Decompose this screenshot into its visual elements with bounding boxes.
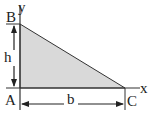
vertex-c-label: C	[127, 93, 137, 109]
triangle-diagram: y x B A C h b	[0, 0, 152, 113]
triangle-shape	[20, 24, 125, 88]
height-label: h	[4, 49, 12, 65]
base-label: b	[67, 91, 75, 107]
y-axis-label: y	[18, 0, 26, 15]
vertex-b-label: B	[6, 9, 16, 25]
x-axis-label: x	[140, 80, 148, 96]
vertex-a-label: A	[5, 92, 16, 108]
